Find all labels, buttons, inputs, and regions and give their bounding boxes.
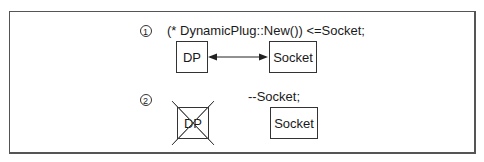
dp-box-deleted: DP <box>177 107 209 139</box>
dp-box-label: DP <box>183 50 201 65</box>
socket-box-remaining: Socket <box>270 107 318 139</box>
dp-box-deleted-label: DP <box>184 116 202 131</box>
step-1-number: 1 <box>143 25 148 39</box>
step-2-code: --Socket; <box>248 90 300 104</box>
socket-box: Socket <box>269 41 317 73</box>
step-1-code: (* DynamicPlug::New()) <=Socket; <box>167 24 365 38</box>
socket-box-label: Socket <box>273 50 313 65</box>
dp-box: DP <box>176 41 208 73</box>
bidirectional-arrow-icon <box>208 54 268 61</box>
socket-box-remaining-label: Socket <box>274 116 314 131</box>
step-2-number: 2 <box>143 94 148 108</box>
